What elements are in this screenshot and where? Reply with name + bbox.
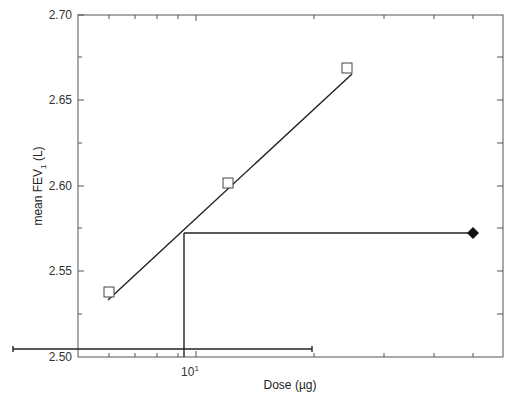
- x-axis-ticks: [109, 15, 473, 357]
- y-tick-label: 2.65: [49, 93, 73, 107]
- y-tick-label: 2.50: [49, 350, 73, 364]
- x-axis-title: Dose (µg): [264, 378, 317, 392]
- y-tick-label: 2.55: [49, 264, 73, 278]
- data-point-square: [342, 63, 352, 73]
- x-tick-label-10: 101: [181, 364, 199, 379]
- dose-response-chart: 2.70 2.65 2.60 2.55 2.50 101 Dose (µg) m…: [0, 0, 514, 407]
- data-point-square: [104, 287, 114, 297]
- y-axis-labels: 2.70 2.65 2.60 2.55 2.50: [49, 8, 73, 364]
- y-axis-title: mean FEV1 (L): [31, 146, 48, 225]
- y-tick-label: 2.70: [49, 8, 73, 22]
- plot-frame: [78, 15, 503, 357]
- data-point-square: [223, 178, 233, 188]
- y-tick-label: 2.60: [49, 179, 73, 193]
- reference-point-diamond: [467, 227, 479, 239]
